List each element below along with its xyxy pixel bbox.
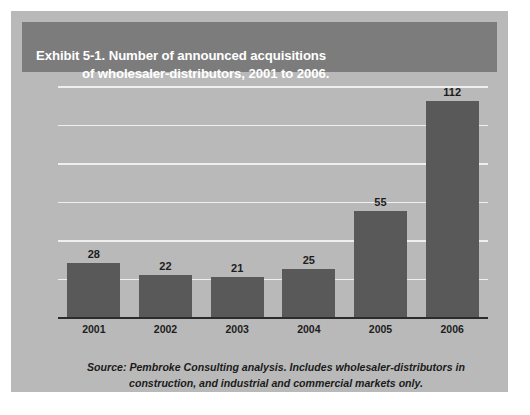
bar-value-label: 25 <box>282 254 335 266</box>
bar-value-label: 112 <box>426 86 479 98</box>
exhibit-header-band: Exhibit 5-1. Number of announced acquisi… <box>22 22 497 72</box>
category-label-2004: 2004 <box>273 323 345 335</box>
bar-value-label: 28 <box>67 248 120 260</box>
category-label-2006: 2006 <box>416 323 488 335</box>
bar-column[interactable]: 55 <box>354 86 407 317</box>
bar-value-label: 55 <box>354 196 407 208</box>
category-label-2002: 2002 <box>130 323 202 335</box>
bar-column[interactable]: 28 <box>67 86 120 317</box>
bar-column[interactable]: 22 <box>139 86 192 317</box>
bar-column[interactable]: 21 <box>211 86 264 317</box>
exhibit-title-line-2: of wholesaler-distributors, 2001 to 2006… <box>36 65 486 83</box>
source-note-line-1: Source: Pembroke Consulting analysis. In… <box>51 359 501 375</box>
category-label-2001: 2001 <box>58 323 130 335</box>
exhibit-title-line-1: Exhibit 5-1. Number of announced acquisi… <box>36 48 326 63</box>
bar-value-label: 22 <box>139 260 192 272</box>
bar-2001[interactable] <box>67 263 120 317</box>
x-axis-category-labels: 200120022003200420052006 <box>58 323 488 339</box>
category-label-2003: 2003 <box>201 323 273 335</box>
bar-2004[interactable] <box>282 269 335 317</box>
source-note-line-2: construction, and industrial and commerc… <box>51 375 501 391</box>
bar-column[interactable]: 112 <box>426 86 479 317</box>
bar-2006[interactable] <box>426 101 479 317</box>
bar-column[interactable]: 25 <box>282 86 335 317</box>
bar-value-label: 21 <box>211 262 264 274</box>
category-label-2005: 2005 <box>345 323 417 335</box>
bar-2005[interactable] <box>354 211 407 317</box>
x-axis-line <box>58 317 488 320</box>
exhibit-card: Exhibit 5-1. Number of announced acquisi… <box>11 11 508 392</box>
bar-2003[interactable] <box>211 277 264 317</box>
bar-2002[interactable] <box>139 275 192 317</box>
source-note: Source: Pembroke Consulting analysis. In… <box>51 359 501 391</box>
chart-plot-area: 2822212555112 <box>58 86 488 318</box>
bar-series: 2822212555112 <box>58 86 488 317</box>
